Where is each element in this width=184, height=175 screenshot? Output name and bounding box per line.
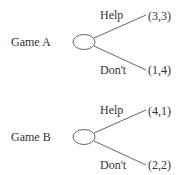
game-trees-diagram bbox=[0, 0, 184, 175]
game-a-help-label: Help bbox=[100, 9, 123, 21]
game-b-dont-label: Don't bbox=[100, 159, 126, 171]
game-b-node bbox=[73, 130, 95, 145]
game-a-help-payoff: (3,3) bbox=[148, 10, 171, 22]
game-a-label: Game A bbox=[11, 36, 51, 48]
game-b-label: Game B bbox=[11, 131, 51, 143]
game-a-tree bbox=[73, 15, 146, 70]
game-b-help-payoff: (4,1) bbox=[148, 105, 171, 117]
game-b-help-label: Help bbox=[100, 104, 123, 116]
game-a-node bbox=[73, 35, 95, 50]
game-b-tree bbox=[73, 110, 146, 165]
game-b-dont-payoff: (2,2) bbox=[148, 159, 171, 171]
game-a-dont-label: Don't bbox=[100, 64, 126, 76]
game-a-dont-payoff: (1,4) bbox=[148, 64, 171, 76]
